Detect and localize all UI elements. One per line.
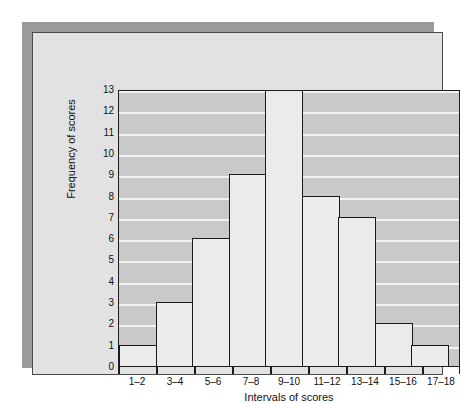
y-tick-label: 8 [108, 192, 114, 202]
x-tick-label: 9–10 [270, 376, 308, 390]
y-axis-title: Frequency of scores [65, 69, 77, 229]
y-tick-label: 7 [108, 213, 114, 223]
x-tick [194, 367, 196, 374]
x-tick [308, 367, 310, 374]
bar-series [119, 91, 459, 366]
x-tick-label: 3–4 [156, 376, 194, 390]
bar [265, 90, 303, 366]
y-tick-label: 1 [108, 341, 114, 351]
bar [156, 302, 194, 366]
y-tick-label: 5 [108, 255, 114, 265]
x-axis-tick-labels: 1–23–45–67–89–1011–1213–1415–1617–18 [118, 376, 460, 390]
bar [375, 323, 413, 366]
x-axis-title: Intervals of scores [118, 391, 460, 403]
y-tick-label: 10 [103, 149, 114, 159]
x-tick-label: 17–18 [422, 376, 460, 390]
x-tick-label: 11–12 [308, 376, 346, 390]
y-tick-label: 4 [108, 277, 114, 287]
x-tick-label: 7–8 [232, 376, 270, 390]
y-tick-label: 11 [104, 128, 114, 138]
bar [338, 217, 376, 366]
x-tick [156, 367, 158, 374]
x-tick [459, 367, 461, 374]
y-axis-tick-labels: 012345678910111213 [90, 90, 114, 367]
bar [119, 345, 157, 366]
chart-panel: Frequency of scores 012345678910111213 1… [32, 32, 443, 375]
x-tick [346, 367, 348, 374]
bar [302, 196, 340, 366]
y-tick-label: 3 [108, 298, 114, 308]
x-tick [232, 367, 234, 374]
x-tick [384, 367, 386, 374]
x-tick-label: 1–2 [118, 376, 156, 390]
x-tick-label: 5–6 [194, 376, 232, 390]
x-tick [118, 367, 120, 374]
x-tick [270, 367, 272, 374]
plot-area [118, 90, 460, 367]
x-tick-label: 15–16 [384, 376, 422, 390]
bar [411, 345, 449, 366]
y-tick-label: 6 [108, 234, 114, 244]
y-tick-label: 13 [103, 85, 114, 95]
y-tick-label: 2 [108, 319, 114, 329]
bar [229, 174, 267, 366]
y-tick-label: 0 [108, 362, 114, 372]
y-tick-label: 9 [108, 170, 114, 180]
x-tick [422, 367, 424, 374]
y-tick-label: 12 [103, 106, 114, 116]
x-tick-label: 13–14 [346, 376, 384, 390]
bar [192, 238, 230, 366]
x-axis-ticks [118, 367, 460, 374]
